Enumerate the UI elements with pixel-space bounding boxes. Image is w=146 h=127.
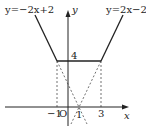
y-axis-label: y (71, 4, 78, 15)
graph-left-solid (35, 15, 57, 61)
origin-label: O (59, 108, 67, 119)
graph-canvas: y=−2x+2 y=2x−2 y x 4 −1 O 1 3 (0, 0, 146, 127)
x-axis-label: x (124, 110, 130, 121)
x-axis-arrow-icon (122, 105, 129, 110)
left-line-label: y=−2x+2 (4, 4, 54, 15)
x-tick-1: 1 (76, 109, 82, 120)
x-tick-3: 3 (98, 108, 104, 119)
y-axis-arrow-icon (66, 10, 71, 17)
y-tick-4: 4 (71, 50, 77, 61)
graph-right-solid (101, 15, 123, 61)
right-line-label: y=2x−2 (105, 4, 146, 15)
